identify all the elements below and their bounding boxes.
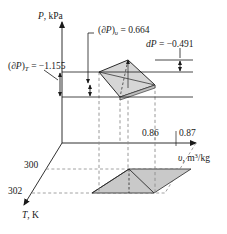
t-tick-302: 302 bbox=[8, 187, 22, 197]
annotation-dPT: (∂P)T = −1.155 bbox=[8, 62, 66, 73]
base-projection-shape bbox=[92, 169, 191, 193]
t-tick-300: 300 bbox=[24, 161, 38, 171]
annotation-dP: dP = −0.491 bbox=[146, 40, 193, 50]
t-axis-line bbox=[24, 143, 62, 205]
thermodynamic-surface-figure: P, kPa (∂P)υ = 0.664 dP = −0.491 (∂P)T =… bbox=[0, 0, 227, 234]
v-tick-086: 0.86 bbox=[142, 129, 159, 139]
annotation-dPv: (∂P)υ = 0.664 bbox=[98, 26, 150, 37]
grid-base-right bbox=[165, 143, 196, 193]
p-axis-label: P, kPa bbox=[38, 12, 63, 22]
v-tick-087: 0.87 bbox=[179, 129, 196, 139]
v-axis-label: υ, m3/kg bbox=[178, 153, 210, 164]
t-axis-label: T, K bbox=[22, 211, 39, 221]
surface-patch-group bbox=[99, 60, 155, 100]
